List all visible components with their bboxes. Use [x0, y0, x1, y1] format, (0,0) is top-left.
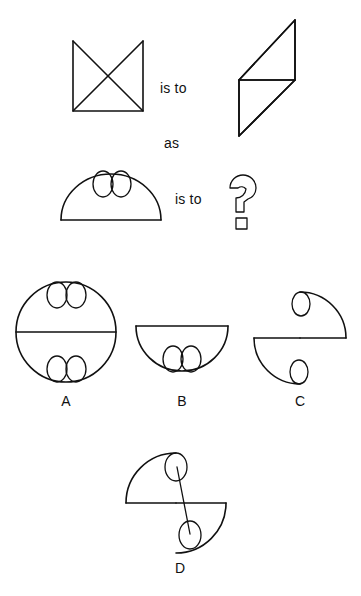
- option-c-lower-left-arc: [254, 338, 300, 384]
- puzzle-canvas: is to as is to A B C: [0, 0, 361, 596]
- upper-diagonal-edge: [239, 20, 295, 80]
- option-d-label: D: [165, 560, 195, 576]
- option-a-bottom-ellipse-right: [66, 356, 86, 382]
- option-d-pinwheel-arcs-with-linked-ellipses[interactable]: [118, 448, 234, 552]
- option-c-upper-right-arc: [300, 292, 346, 338]
- option-a-top-ellipse-right: [66, 282, 86, 308]
- option-b-ellipse-right: [181, 346, 201, 372]
- parallelogram-with-midline: [215, 16, 323, 140]
- relation-word-is-to-2: is to: [175, 191, 202, 207]
- option-c-label: C: [285, 393, 315, 409]
- lower-diagonal-edge: [239, 80, 295, 136]
- parallelogram-outline: [239, 20, 295, 136]
- relation-word-as: as: [164, 135, 179, 151]
- open-square-with-x-diagonals: [70, 38, 146, 114]
- option-b-ellipse-left: [163, 346, 183, 372]
- option-a-bottom-ellipse-left: [47, 356, 67, 382]
- option-a-top-ellipse-left: [47, 282, 67, 308]
- option-b-bowl-with-two-ellipses[interactable]: [132, 320, 232, 382]
- question-mark-icon: [224, 172, 270, 234]
- option-c-upper-ellipse: [292, 292, 310, 316]
- question-mark-hook: [230, 175, 256, 212]
- option-b-label: B: [167, 393, 197, 409]
- option-d-upper-ellipse: [165, 453, 187, 481]
- question-mark-dot: [236, 218, 247, 229]
- option-c-lower-ellipse: [290, 360, 308, 384]
- relation-word-is-to-1: is to: [160, 80, 187, 96]
- option-c-offset-quarter-arcs-with-ellipses[interactable]: [248, 283, 352, 387]
- option-a-label: A: [51, 393, 81, 409]
- option-d-lower-ellipse: [179, 521, 201, 549]
- dome-with-two-ellipses: [55, 168, 167, 228]
- option-a-circle-with-diameter-and-four-ellipses[interactable]: [12, 278, 120, 386]
